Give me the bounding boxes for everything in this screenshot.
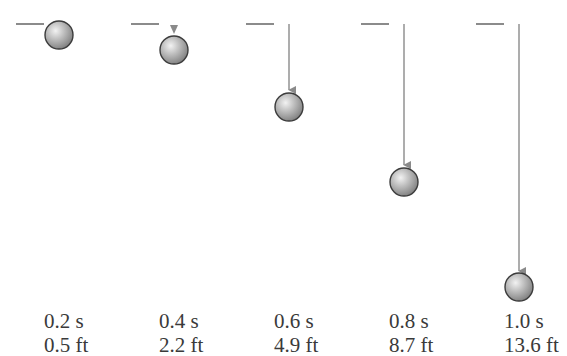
time-label: 0.2 s: [44, 311, 84, 332]
ball-icon: [275, 93, 303, 121]
ball-icon: [390, 168, 418, 196]
frame-4: [361, 24, 418, 196]
frame-5: [476, 24, 533, 301]
time-label: 1.0 s: [504, 311, 544, 332]
ball-icon: [160, 36, 188, 64]
ball-icon: [505, 273, 533, 301]
time-label: 0.6 s: [274, 311, 314, 332]
time-label: 0.8 s: [389, 311, 429, 332]
distance-label: 8.7 ft: [389, 335, 433, 356]
distance-label: 4.9 ft: [274, 335, 318, 356]
distance-label: 13.6 ft: [504, 335, 559, 356]
ball-icon: [45, 21, 73, 49]
frame-3: [246, 24, 303, 121]
frame-1: [16, 21, 73, 49]
distance-label: 2.2 ft: [159, 335, 203, 356]
distance-label: 0.5 ft: [44, 335, 88, 356]
frame-2: [131, 24, 188, 64]
time-label: 0.4 s: [159, 311, 199, 332]
drop-arrow-icon: [170, 25, 178, 34]
